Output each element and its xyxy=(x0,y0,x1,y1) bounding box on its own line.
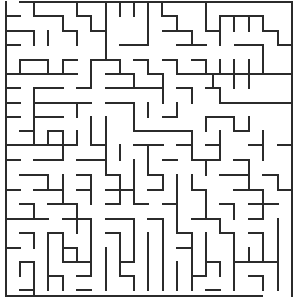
maze-board xyxy=(0,0,302,300)
